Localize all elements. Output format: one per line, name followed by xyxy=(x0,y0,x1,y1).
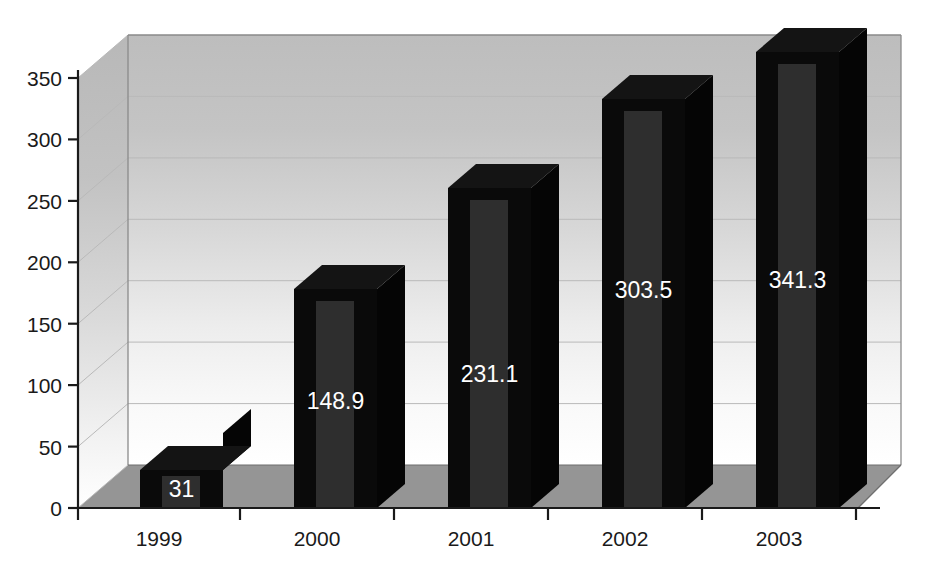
y-tick-label-250: 250 xyxy=(27,190,62,213)
x-tick-label-2001: 2001 xyxy=(448,527,495,550)
y-tick-label-200: 200 xyxy=(27,251,62,274)
y-tick-label-50: 50 xyxy=(39,436,62,459)
plot-left-wall xyxy=(78,35,128,508)
bar-chart-3d: 31 148.9 231.1 303.5 xyxy=(0,0,934,571)
x-tick-label-2003: 2003 xyxy=(756,527,803,550)
bar-label-2000: 148.9 xyxy=(307,388,365,414)
bar-label-2001: 231.1 xyxy=(461,361,519,387)
bar-2002[interactable]: 303.5 xyxy=(602,75,713,508)
x-tick-label-2000: 2000 xyxy=(294,527,341,550)
y-tick-label-350: 350 xyxy=(27,67,62,90)
bar-label-2003: 341.3 xyxy=(769,267,827,293)
bar-label-1999: 31 xyxy=(169,476,195,502)
x-tick-label-2002: 2002 xyxy=(602,527,649,550)
x-tick-label-1999: 1999 xyxy=(136,527,183,550)
y-axis: 350 300 250 200 150 100 50 0 xyxy=(27,67,78,520)
x-axis: 1999 2000 2001 2002 2003 xyxy=(78,508,880,550)
y-tick-label-100: 100 xyxy=(27,374,62,397)
bar-label-2002: 303.5 xyxy=(615,277,673,303)
bar-2001[interactable]: 231.1 xyxy=(448,164,559,508)
chart-container: 31 148.9 231.1 303.5 xyxy=(0,0,934,571)
bar-2000[interactable]: 148.9 xyxy=(294,265,405,508)
y-tick-label-0: 0 xyxy=(50,497,62,520)
y-tick-label-150: 150 xyxy=(27,313,62,336)
y-tick-label-300: 300 xyxy=(27,128,62,151)
bar-2003[interactable]: 341.3 xyxy=(756,28,867,508)
